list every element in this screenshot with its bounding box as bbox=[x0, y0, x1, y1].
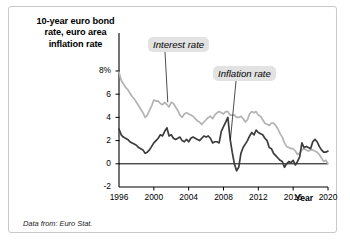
annotation-interest-rate: Interest rate bbox=[148, 37, 209, 52]
figure-panel: 10-year euro bond rate, euro area inflat… bbox=[8, 6, 337, 233]
y-tick-label: -2 bbox=[104, 181, 111, 191]
y-tick-label: 4 bbox=[106, 112, 111, 122]
source-note: Data from: Euro Stat. bbox=[23, 219, 92, 228]
chart-series bbox=[119, 72, 328, 171]
x-tick-label: 1996 bbox=[108, 192, 130, 202]
y-tick-label: 6 bbox=[106, 89, 111, 99]
x-tick-label: 2020 bbox=[317, 192, 339, 202]
chart-axes bbox=[116, 33, 329, 191]
y-tick-label: 0 bbox=[106, 158, 111, 168]
x-tick-label: 2008 bbox=[213, 192, 235, 202]
y-tick-label: 2 bbox=[106, 135, 111, 145]
annotation-inflation-rate: Inflation rate bbox=[213, 66, 276, 81]
x-tick-label: 2004 bbox=[178, 192, 200, 202]
y-tick-label: 8% bbox=[99, 65, 111, 75]
x-tick-label: 2000 bbox=[143, 192, 165, 202]
x-axis-title: Year bbox=[295, 193, 313, 203]
x-tick-label: 2012 bbox=[247, 192, 269, 202]
